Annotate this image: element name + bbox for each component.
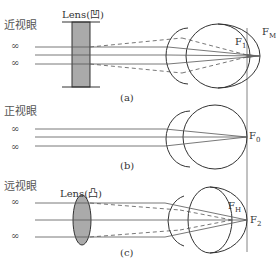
panel-c-title: 远视眼	[4, 177, 37, 193]
panel-b-infinity-top: ∞	[11, 123, 19, 134]
panel-b-caption: (b)	[120, 160, 134, 171]
panel-a-focus-f1: F1	[235, 36, 246, 50]
panel-a-lens-label: Lens(凹)	[62, 6, 104, 21]
panel-b-emmetropia	[35, 105, 247, 169]
panel-c-caption: (c)	[120, 247, 133, 258]
panel-c-infinity-top: ∞	[11, 196, 19, 207]
panel-c-infinity-bottom: ∞	[11, 230, 19, 241]
concave-lens	[72, 22, 90, 87]
panel-a-myopia	[35, 22, 260, 88]
panel-a-title: 近视眼	[4, 16, 37, 32]
panel-b-title: 正视眼	[4, 102, 37, 118]
panel-a-infinity-top: ∞	[11, 40, 19, 51]
panel-a-infinity-bottom: ∞	[11, 57, 19, 68]
panel-b-infinity-bottom: ∞	[11, 141, 19, 152]
panel-b-focus-f0: F0	[249, 130, 260, 144]
panel-c-focus-fh: FH	[228, 200, 241, 214]
panel-c-focus-f2: F2	[250, 214, 261, 228]
panel-a-focus-fm: FM	[262, 26, 276, 40]
panel-a-caption: (a)	[120, 92, 134, 103]
panel-c-lens-label: Lens(凸)	[60, 185, 102, 200]
